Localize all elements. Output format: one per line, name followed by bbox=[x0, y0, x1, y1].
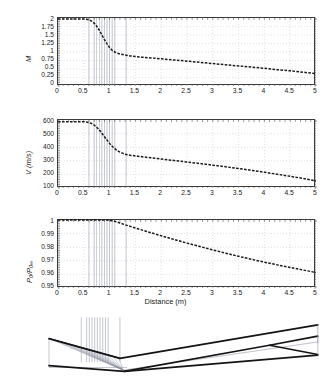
xtick: 0.5 bbox=[71, 289, 95, 296]
xtick: 3.5 bbox=[226, 289, 250, 296]
mach-plot-area bbox=[57, 17, 315, 85]
ytick: 1 bbox=[18, 47, 54, 54]
xtick: 1.5 bbox=[122, 289, 146, 296]
xtick: 5 bbox=[303, 189, 327, 196]
xtick: 0 bbox=[45, 87, 69, 94]
nozzle-geometry-panel bbox=[0, 310, 331, 387]
xtick: 0 bbox=[45, 189, 69, 196]
xtick: 4 bbox=[251, 289, 275, 296]
pressure-plot-area bbox=[57, 219, 315, 287]
ytick: 400 bbox=[18, 143, 54, 150]
velocity-panel: V (m/s) 600 500 400 300 200 100 00.511.5… bbox=[0, 105, 331, 205]
nozzle-geometry-area bbox=[45, 310, 325, 387]
ytick: 1.25 bbox=[18, 39, 54, 46]
ytick: 500 bbox=[18, 130, 54, 137]
xtick: 1 bbox=[97, 189, 121, 196]
xtick: 1.5 bbox=[122, 87, 146, 94]
xtick: 5 bbox=[303, 289, 327, 296]
xtick: 3 bbox=[200, 289, 224, 296]
xtick: 3.5 bbox=[226, 189, 250, 196]
xtick: 2.5 bbox=[174, 289, 198, 296]
ytick: 300 bbox=[18, 156, 54, 163]
mach-curve-svg bbox=[58, 18, 316, 86]
ytick: 1.75 bbox=[18, 23, 54, 30]
xtick: 5 bbox=[303, 87, 327, 94]
xtick: 2 bbox=[148, 289, 172, 296]
pressure-ratio-panel: P0/P0∞ 1 0.99 0.98 0.97 0.96 0.95 00.511… bbox=[0, 205, 331, 310]
xtick: 1 bbox=[97, 87, 121, 94]
xtick: 3 bbox=[200, 189, 224, 196]
velocity-plot-area bbox=[57, 119, 315, 187]
ytick: 0.98 bbox=[14, 243, 54, 250]
ytick: 100 bbox=[18, 182, 54, 189]
ytick: 0.5 bbox=[18, 63, 54, 70]
nozzle-geometry-svg bbox=[45, 310, 325, 387]
xtick: 1 bbox=[97, 289, 121, 296]
xtick: 4 bbox=[251, 189, 275, 196]
xtick: 4.5 bbox=[277, 87, 301, 94]
xtick: 0.5 bbox=[71, 87, 95, 94]
xtick: 3.5 bbox=[226, 87, 250, 94]
x-axis-title: Distance (m) bbox=[0, 297, 331, 306]
velocity-curve-svg bbox=[58, 120, 316, 188]
xtick: 2.5 bbox=[174, 189, 198, 196]
xtick: 2 bbox=[148, 189, 172, 196]
xtick: 0 bbox=[45, 289, 69, 296]
xtick: 0.5 bbox=[71, 189, 95, 196]
ytick: 600 bbox=[18, 117, 54, 124]
xtick: 3 bbox=[200, 87, 224, 94]
mach-panel: M 2 1.75 1.5 1.25 1 0.75 0.5 0.25 0 00.5… bbox=[0, 0, 331, 105]
ytick: 0.97 bbox=[14, 256, 54, 263]
ytick: 0.25 bbox=[18, 71, 54, 78]
ytick: 200 bbox=[18, 169, 54, 176]
ytick: 0.95 bbox=[14, 282, 54, 289]
ytick: 0 bbox=[18, 79, 54, 86]
xtick: 2.5 bbox=[174, 87, 198, 94]
xtick: 4 bbox=[251, 87, 275, 94]
ytick: 1.5 bbox=[18, 31, 54, 38]
ytick: 0.96 bbox=[14, 269, 54, 276]
pressure-curve-svg bbox=[58, 220, 316, 288]
xtick: 2 bbox=[148, 87, 172, 94]
xtick: 4.5 bbox=[277, 189, 301, 196]
xtick: 4.5 bbox=[277, 289, 301, 296]
ytick: 0.99 bbox=[14, 230, 54, 237]
ytick: 0.75 bbox=[18, 55, 54, 62]
ytick: 2 bbox=[18, 15, 54, 22]
xtick: 1.5 bbox=[122, 189, 146, 196]
ytick: 1 bbox=[14, 217, 54, 224]
